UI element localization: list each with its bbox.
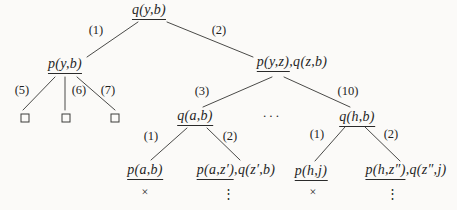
- goal-remainder: ,q(z′,b): [234, 162, 275, 177]
- edge-clause-label: (2): [384, 128, 399, 140]
- sld-tree-diagram: ··· (1)(2)(5)(6)(7)(3)(10)(1)(2)(1)(2)q(…: [0, 0, 457, 210]
- goal-remainder: ,q(z″,j): [406, 162, 447, 177]
- edge-clause-label: (10): [338, 85, 359, 97]
- tree-node-p-a-z1-q-z1-b: p(a,z′),q(z′,b): [197, 163, 276, 177]
- failure-mark: ×: [310, 186, 317, 198]
- edge-clause-label: (6): [72, 84, 87, 96]
- subtree-ellipsis: ···: [263, 108, 282, 124]
- selected-literal: p(a,z′): [197, 162, 234, 180]
- tree-node-p-h-z2-q-z2-j: p(h,z″),q(z″,j): [365, 163, 446, 177]
- edge-clause-label: (7): [101, 84, 116, 96]
- selected-literal: p(y,z): [257, 54, 290, 72]
- selected-literal: q(y,b): [132, 2, 166, 20]
- tree-edge: [167, 22, 253, 57]
- tree-node-p-h-j: p(h,j): [295, 164, 328, 178]
- tree-node-p-y-z-q-z-b: p(y,z),q(z,b): [257, 55, 327, 69]
- failure-mark: ×: [142, 186, 149, 198]
- goal-remainder: ,q(z,b): [289, 54, 327, 69]
- empty-clause-box: [21, 114, 30, 123]
- edge-clause-label: (1): [144, 130, 159, 142]
- empty-clause-box: [111, 114, 120, 123]
- selected-literal: q(h,b): [339, 109, 375, 127]
- edge-clause-label: (5): [15, 84, 30, 96]
- tree-node-p-y-b: p(y,b): [48, 57, 82, 71]
- edge-clause-label: (2): [212, 24, 227, 36]
- edge-clause-label: (2): [223, 130, 238, 142]
- edge-clause-label: (3): [195, 85, 210, 97]
- edge-clause-label: (1): [89, 24, 104, 36]
- continuation-dots: ⋮: [386, 187, 399, 200]
- selected-literal: q(a,b): [177, 108, 213, 126]
- selected-literal: p(h,z″): [365, 162, 405, 180]
- selected-literal: p(a,b): [127, 162, 163, 180]
- tree-node-p-a-b: p(a,b): [127, 163, 163, 177]
- selected-literal: p(y,b): [48, 56, 82, 74]
- tree-node-q-h-b: q(h,b): [339, 110, 375, 124]
- empty-clause-box: [62, 114, 71, 123]
- edge-clause-label: (1): [310, 128, 325, 140]
- tree-node-q-a-b: q(a,b): [177, 109, 213, 123]
- selected-literal: p(h,j): [295, 163, 328, 181]
- tree-edge: [203, 77, 272, 107]
- continuation-dots: ⋮: [222, 187, 235, 200]
- tree-node-root-q-y-b: q(y,b): [132, 3, 166, 17]
